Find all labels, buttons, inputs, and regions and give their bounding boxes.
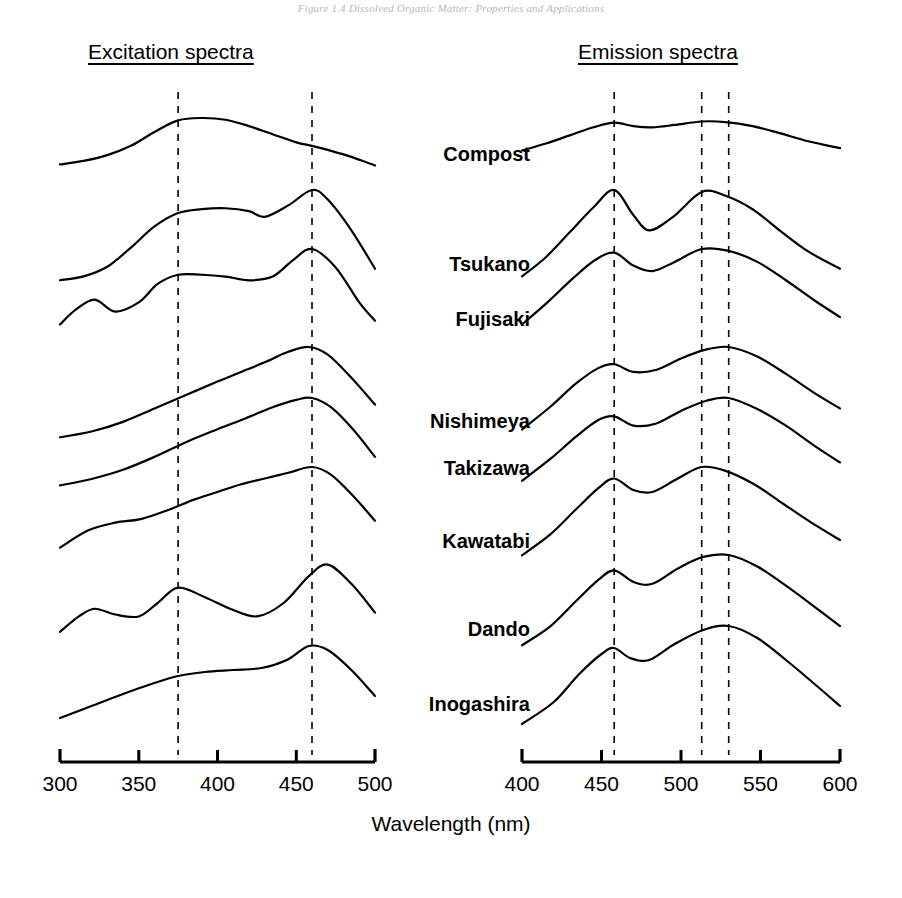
spectrum-curve-emission-tsukano xyxy=(522,190,840,276)
sample-label-tsukano: Tsukano xyxy=(350,253,530,276)
figure-root: Figure 1.4 Dissolved Organic Matter: Pro… xyxy=(0,0,902,898)
spectrum-curve-emission-fujisaki xyxy=(522,248,840,324)
sample-label-takizawa: Takizawa xyxy=(350,457,530,480)
x-tick-label-excitation-500: 500 xyxy=(340,772,410,796)
x-tick-label-excitation-300: 300 xyxy=(25,772,95,796)
x-tick-label-emission-400: 400 xyxy=(487,772,557,796)
x-tick-label-emission-500: 500 xyxy=(646,772,716,796)
spectrum-curve-emission-nishimeya xyxy=(522,347,840,430)
sample-label-fujisaki: Fujisaki xyxy=(350,308,530,331)
x-tick-label-excitation-350: 350 xyxy=(104,772,174,796)
spectrum-curve-excitation-inogashira xyxy=(60,645,375,718)
spectrum-curve-excitation-dando xyxy=(60,564,375,631)
x-tick-label-emission-550: 550 xyxy=(726,772,796,796)
x-tick-label-emission-450: 450 xyxy=(567,772,637,796)
spectra-plot xyxy=(0,0,902,898)
sample-label-kawatabi: Kawatabi xyxy=(350,530,530,553)
spectrum-curve-excitation-kawatabi xyxy=(60,467,375,548)
sample-label-compost: Compost xyxy=(350,143,530,166)
spectrum-curve-emission-compost xyxy=(522,121,840,150)
spectrum-curve-excitation-nishimeya xyxy=(60,347,375,437)
spectrum-curve-emission-takizawa xyxy=(522,398,840,481)
sample-label-nishimeya: Nishimeya xyxy=(350,410,530,433)
spectrum-curve-emission-kawatabi xyxy=(522,467,840,556)
spectrum-curve-excitation-compost xyxy=(60,118,375,166)
x-tick-label-excitation-450: 450 xyxy=(261,772,331,796)
x-tick-label-emission-600: 600 xyxy=(805,772,875,796)
sample-label-inogashira: Inogashira xyxy=(350,693,530,716)
sample-label-dando: Dando xyxy=(350,618,530,641)
spectrum-curve-emission-dando xyxy=(522,554,840,645)
spectrum-curve-emission-inogashira xyxy=(522,626,840,724)
x-axis-title: Wavelength (nm) xyxy=(0,812,902,836)
spectrum-curve-excitation-fujisaki xyxy=(60,249,375,325)
panel-excitation xyxy=(60,92,375,762)
panel-emission xyxy=(522,92,840,762)
spectrum-curve-excitation-tsukano xyxy=(60,190,375,280)
x-tick-label-excitation-400: 400 xyxy=(183,772,253,796)
